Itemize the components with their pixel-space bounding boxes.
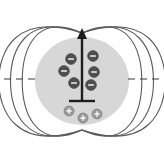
plus-sign-icon [82,115,84,120]
minus-sign-icon [68,58,74,60]
dipole-field-diagram [0,0,164,161]
negative-charge [69,78,80,89]
minus-sign-icon [90,55,96,57]
minus-sign-icon [91,71,97,73]
negative-charge [59,66,70,77]
negative-charge [66,54,77,65]
diagram-canvas [0,0,164,161]
negative-charge [88,51,99,62]
plus-sign-icon [68,108,70,113]
plus-sign-icon [96,111,98,116]
positive-charge [92,109,102,119]
positive-charge [64,106,74,116]
minus-sign-icon [61,70,67,72]
minus-sign-icon [88,84,94,86]
minus-sign-icon [71,82,77,84]
dipole-arrow-head [77,28,87,39]
positive-charge [78,113,88,123]
negative-charge [89,67,100,78]
negative-charge [86,80,97,91]
